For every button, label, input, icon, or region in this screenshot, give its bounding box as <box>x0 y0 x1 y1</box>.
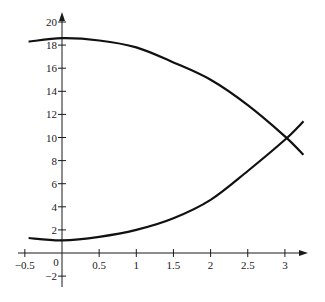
chart: −0.500.511.522.53 −22468101214161820 <box>0 0 325 302</box>
y-axis-arrow-icon <box>59 12 65 21</box>
x-tick-label: 0.5 <box>92 259 106 271</box>
y-tick-label: 20 <box>46 16 58 28</box>
curves <box>29 38 304 240</box>
axes <box>18 12 308 287</box>
y-tick-label: 6 <box>52 178 58 190</box>
y-tick-label: 2 <box>52 224 58 236</box>
y-tick-label: 18 <box>46 39 58 51</box>
x-tick-label: −0.5 <box>15 259 35 271</box>
lower-curve <box>29 121 304 240</box>
x-tick-label: 1 <box>134 259 140 271</box>
y-tick-label: 8 <box>52 155 58 167</box>
x-tick-label: 2.5 <box>241 259 255 271</box>
upper-curve <box>29 38 304 155</box>
y-tick-label: 4 <box>52 201 58 213</box>
y-tick-label: 12 <box>46 108 57 120</box>
x-ticks: −0.500.511.522.53 <box>15 249 288 271</box>
y-tick-label: 16 <box>46 62 58 74</box>
x-tick-label: 1.5 <box>167 259 181 271</box>
y-tick-label: 10 <box>46 132 58 144</box>
y-tick-label: 14 <box>46 85 58 97</box>
y-ticks: −22468101214161820 <box>45 16 66 282</box>
x-tick-label: 2 <box>208 259 214 271</box>
x-tick-label: 3 <box>282 259 288 271</box>
x-axis-arrow-icon <box>299 250 308 256</box>
y-tick-label: −2 <box>45 270 57 282</box>
x-tick-label: 0 <box>53 256 59 268</box>
